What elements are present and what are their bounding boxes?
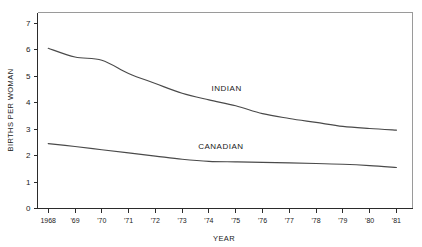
x-tick-label: '72 (151, 217, 160, 224)
series-label-indian: INDIAN (212, 84, 242, 93)
y-axis-title: BIRTHS PER WOMAN (6, 69, 15, 152)
y-axis-tick-labels: 01234567 (26, 19, 31, 213)
x-axis-tick-labels: 1968'69'70'71'72'73'74'75'76'77'78'79'80… (40, 217, 401, 224)
x-tick-label: '79 (338, 217, 347, 224)
y-tick-label: 2 (26, 151, 31, 160)
x-axis-title: YEAR (213, 234, 235, 243)
plot-frame (38, 13, 413, 209)
y-tick-label: 3 (26, 125, 31, 134)
x-tick-label: '76 (258, 217, 267, 224)
x-tick-label: '69 (70, 217, 79, 224)
y-tick-label: 6 (26, 45, 31, 54)
series-annotations: INDIANCANADIAN (198, 84, 243, 151)
x-tick-label: '73 (178, 217, 187, 224)
x-tick-label: 1968 (40, 217, 56, 224)
x-tick-label: '70 (97, 217, 106, 224)
x-tick-label: '78 (312, 217, 321, 224)
x-tick-label: '80 (365, 217, 374, 224)
y-tick-label: 5 (26, 72, 31, 81)
y-tick-label: 4 (26, 98, 31, 107)
chart-container: 01234567 1968'69'70'71'72'73'74'75'76'77… (0, 0, 422, 247)
x-tick-label: '81 (392, 217, 401, 224)
x-tick-label: '71 (124, 217, 133, 224)
plot-axes (38, 13, 413, 209)
y-tick-label: 1 (26, 178, 31, 187)
y-tick-label: 7 (26, 19, 31, 28)
series-label-canadian: CANADIAN (198, 142, 243, 151)
x-tick-label: '77 (285, 217, 294, 224)
y-tick-label: 0 (26, 204, 31, 213)
x-tick-label: '74 (204, 217, 213, 224)
x-tick-label: '75 (231, 217, 240, 224)
line-chart: 01234567 1968'69'70'71'72'73'74'75'76'77… (0, 0, 422, 247)
